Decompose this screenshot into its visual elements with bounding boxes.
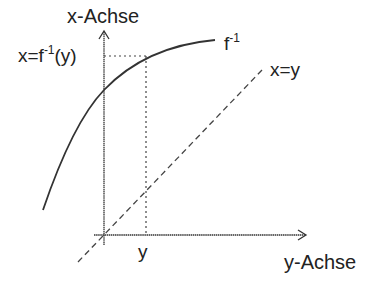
point-x-label-post: (y) [55, 45, 77, 66]
vertical-axis-label: x-Achse [67, 6, 139, 26]
vertical-axis [99, 31, 109, 245]
point-y-label: y [138, 242, 148, 261]
identity-label: x=y [270, 60, 300, 79]
identity-line [78, 70, 262, 262]
diagram-canvas [0, 0, 385, 286]
point-x-label-sup: -1 [44, 43, 55, 57]
horizontal-axis-label: y-Achse [284, 252, 356, 272]
curve-label-sup: -1 [229, 31, 240, 45]
horizontal-axis [94, 230, 306, 240]
curve-label: f-1 [224, 34, 240, 53]
point-x-label-pre: x=f [18, 45, 44, 66]
point-x-label: x=f-1(y) [18, 46, 77, 65]
inverse-function-diagram: x-Achse x=f-1(y) f-1 x=y y y-Achse [0, 0, 385, 286]
